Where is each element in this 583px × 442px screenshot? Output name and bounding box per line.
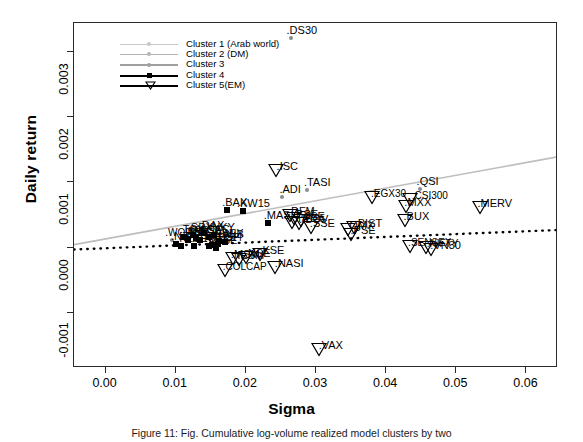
point-label: .KW15 (237, 197, 270, 209)
x-tick-mark (455, 367, 456, 373)
data-point (289, 36, 293, 40)
point-label: .VN30 (430, 239, 461, 251)
x-tick-label: 0.02 (215, 376, 275, 390)
x-tick-mark (245, 367, 246, 373)
marker-dot-icon (280, 195, 284, 199)
point-label: .MERV (477, 197, 512, 209)
legend-key (120, 70, 180, 80)
legend-marker-dot-icon (147, 52, 151, 56)
chart-figure: Daily return Sigma -0.0010.0000.0010.002… (0, 0, 583, 442)
data-point (225, 270, 233, 277)
x-tick-mark (525, 367, 526, 373)
legend-label: Cluster 5(EM) (186, 80, 245, 90)
y-tick-label: 0.003 (57, 49, 71, 109)
x-tick-mark (315, 367, 316, 373)
legend-marker-square-icon (147, 73, 152, 78)
legend-key (120, 39, 180, 49)
point-label: .VAX (319, 339, 343, 351)
marker-dot-icon (305, 188, 309, 192)
x-tick-label: 0.06 (495, 376, 555, 390)
point-label: .QSI (417, 175, 439, 187)
x-tick-mark (105, 367, 106, 373)
legend-marker-dot-icon (147, 42, 151, 46)
y-tick-label: 0.000 (57, 245, 71, 305)
legend-key (120, 49, 180, 59)
point-label: .ADI (279, 183, 300, 195)
marker-dot-icon (289, 36, 293, 40)
point-label: .NZX (171, 230, 196, 242)
x-tick-label: 0.01 (145, 376, 205, 390)
x-tick-label: 0.00 (75, 376, 135, 390)
y-tick-label: -0.001 (57, 310, 71, 370)
data-point (372, 198, 380, 205)
data-point (305, 188, 309, 192)
x-tick-label: 0.04 (355, 376, 415, 390)
point-label: .SSE (310, 217, 335, 229)
x-axis-title: Sigma (0, 400, 583, 418)
data-point (280, 195, 284, 199)
point-label: .NASI (275, 257, 304, 269)
point-label: .OSE (211, 234, 237, 246)
y-tick-label: 0.001 (57, 179, 71, 239)
plot-area: .DS30.ISC.TASI.ADI.QSI.EGX30.CSI300.MXX.… (73, 22, 557, 367)
point-label: .EGX30 (371, 188, 406, 199)
point-label: .DS30 (287, 24, 318, 36)
point-label: .TASI (304, 176, 331, 188)
legend-key (120, 60, 180, 70)
point-label: .PSE (351, 224, 376, 236)
y-tick-label: 0.002 (57, 114, 71, 174)
legend-marker-dot-icon (147, 63, 151, 67)
point-label: .COLCAP (223, 260, 267, 271)
x-tick-mark (385, 367, 386, 373)
x-tick-label: 0.05 (425, 376, 485, 390)
legend-key (120, 81, 180, 91)
y-axis-title: Daily return (22, 84, 40, 234)
point-label: .MXX (404, 196, 431, 208)
x-tick-label: 0.03 (285, 376, 345, 390)
figure-caption: Figure 11: Fig. Cumulative log-volume re… (0, 427, 583, 439)
x-tick-mark (175, 367, 176, 373)
point-label: .ISC (277, 160, 298, 172)
legend-marker-triangle-down-icon (145, 81, 156, 90)
point-label: .BUX (404, 210, 430, 222)
